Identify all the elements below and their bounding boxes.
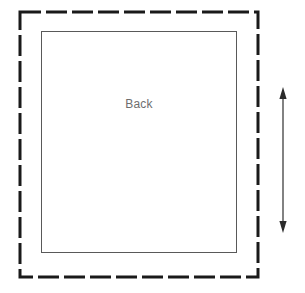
dimension-arrowhead-up-icon xyxy=(279,87,286,99)
diagram-canvas: Back xyxy=(0,0,305,293)
technical-drawing xyxy=(0,0,305,293)
seam-line-solid-rectangle xyxy=(42,32,237,253)
dimension-arrowhead-down-icon xyxy=(279,221,286,233)
height-dimension-arrow xyxy=(279,87,286,233)
